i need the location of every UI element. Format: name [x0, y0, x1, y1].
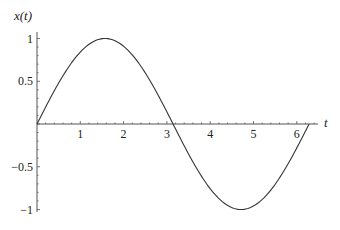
x-tick-label: 1 [77, 127, 83, 141]
y-tick-label: −1 [20, 203, 33, 217]
y-tick-label: −0.5 [11, 160, 33, 174]
y-tick-label: 1 [27, 32, 33, 46]
x-tick-label: 4 [207, 127, 213, 141]
y-axis-label: x(t) [13, 8, 32, 23]
x-axis: 123456 [37, 121, 318, 141]
x-tick-label: 6 [294, 127, 300, 141]
y-tick-label: 0.5 [18, 74, 33, 88]
x-tick-label: 5 [251, 127, 257, 141]
y-axis: 10.5−0.5−1 [11, 32, 40, 217]
x-tick-label: 2 [121, 127, 127, 141]
x-axis-label: t [324, 115, 328, 130]
x-tick-label: 3 [164, 127, 170, 141]
chart: 10.5−0.5−1 123456 x(t) t [0, 0, 340, 230]
